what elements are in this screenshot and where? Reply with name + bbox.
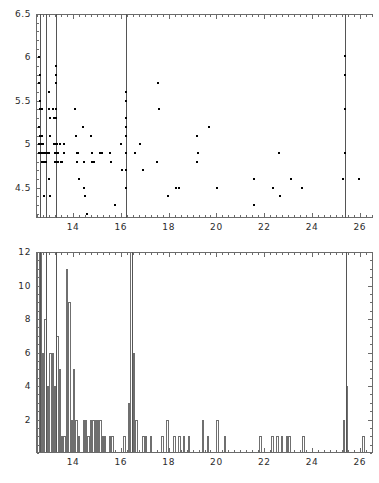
scatter-point [158,108,160,110]
scatter-point [59,143,61,145]
scatter-xtick [67,215,68,217]
scatter-xtick [258,215,259,217]
scatter-xtick [175,215,176,217]
histogram-ytick-label: 4 [25,382,31,391]
scatter-panel: 141618202224264.555.566.5 [0,0,379,240]
histogram-ytick [370,277,372,278]
scatter-xtick [175,15,176,17]
scatter-point [49,195,51,197]
scatter-xtick [115,215,116,217]
scatter-ytick [37,196,39,197]
histogram-ytick [370,302,372,303]
scatter-point [125,187,127,189]
scatter-xtick [258,15,259,17]
scatter-xtick [282,15,283,17]
histogram-bar [178,436,180,453]
histogram-ytick [370,294,372,295]
scatter-point [38,126,40,128]
histogram-panel: 1416182022242624681012 [0,240,379,483]
scatter-xtick [324,215,325,217]
histogram-xtick [73,253,74,257]
scatter-xtick [276,215,277,217]
histogram-xtick [181,253,182,255]
histogram-xtick [151,253,152,255]
scatter-point [49,117,51,119]
scatter-xtick [252,215,253,217]
histogram-xtick [169,253,170,257]
scatter-point [196,161,198,163]
histogram-bar [183,436,185,453]
scatter-point [175,187,177,189]
scatter-xtick [336,215,337,217]
scatter-point [55,117,57,119]
scatter-ytick [37,170,39,171]
histogram-ytick [368,386,372,387]
scatter-xtick [366,15,367,17]
scatter-point [48,91,50,93]
histogram-bar [276,436,278,453]
histogram-xtick [121,253,122,257]
scatter-xtick [270,215,271,217]
scatter-xtick-label: 16 [115,223,128,232]
scatter-xtick [151,215,152,217]
scatter-xtick [37,215,38,217]
scatter-xtick [43,15,44,17]
histogram-bar [104,436,106,453]
scatter-point [91,152,93,154]
scatter-point [208,126,210,128]
histogram-xtick [300,253,301,255]
histogram-xtick [372,253,373,255]
scatter-xtick [37,15,38,17]
scatter-point [93,161,95,163]
histogram-ytick [370,260,372,261]
scatter-xtick [210,215,211,217]
scatter-xtick [193,215,194,217]
scatter-xtick [73,15,74,19]
scatter-xtick-label: 22 [258,223,271,232]
scatter-point [61,161,63,163]
scatter-point [272,187,274,189]
scatter-point [74,108,76,110]
scatter-point [167,195,169,197]
scatter-point [63,152,65,154]
scatter-xtick [288,215,289,217]
scatter-point [76,161,78,163]
scatter-point [156,161,158,163]
histogram-bar [362,436,364,453]
histogram-ytick [370,445,372,446]
histogram-ytick [368,319,372,320]
histogram-ytick [368,420,372,421]
scatter-xtick [121,15,122,19]
histogram-reference-line [346,252,347,453]
histogram-xtick [210,253,211,255]
scatter-xtick [366,215,367,217]
scatter-point [48,178,50,180]
histogram-xtick [199,253,200,255]
histogram-xtick [216,253,217,257]
scatter-xtick [85,15,86,17]
scatter-ytick [37,66,39,67]
histogram-xtick [288,253,289,255]
scatter-xtick [210,15,211,17]
scatter-xtick-label: 14 [67,223,80,232]
histogram-ytick-label: 10 [18,281,31,290]
histogram-xtick [157,253,158,255]
scatter-xtick [115,15,116,17]
histogram-xtick [240,253,241,255]
histogram-ytick [370,394,372,395]
scatter-xtick [270,15,271,17]
scatter-xtick [139,15,140,17]
scatter-xtick [246,15,247,17]
scatter-xtick [205,15,206,17]
scatter-xtick [240,15,241,17]
scatter-point [253,178,255,180]
scatter-xtick [181,215,182,217]
histogram-xtick [103,253,104,255]
scatter-xtick [318,215,319,217]
histogram-ytick [370,428,372,429]
scatter-point [45,161,47,163]
histogram-ytick [370,369,372,370]
scatter-xtick [67,15,68,17]
scatter-point [77,152,79,154]
histogram-xtick-label: 22 [258,458,271,467]
